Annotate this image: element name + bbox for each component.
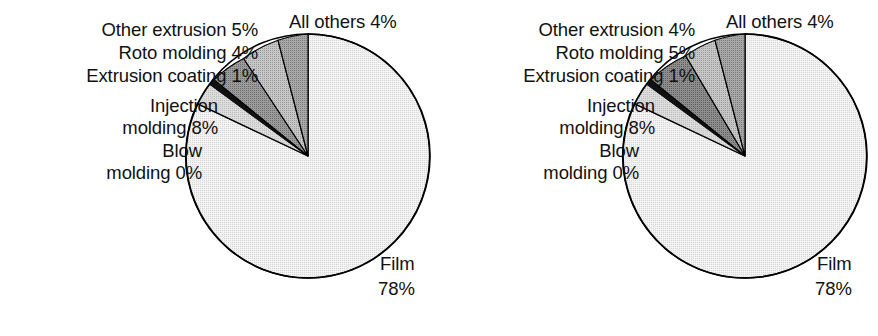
label-film-line1: Film: [817, 254, 852, 274]
label-other-extrusion: Other extrusion 5%: [101, 20, 258, 40]
label-other-extrusion: Other extrusion 4%: [538, 20, 695, 40]
label-roto-molding: Roto molding 5%: [556, 43, 695, 63]
label-extrusion-coating: Extrusion coating 1%: [86, 66, 258, 86]
label-all-others: All others 4%: [726, 12, 834, 32]
label-blow-molding-line1: Blow: [162, 141, 202, 161]
label-extrusion-coating: Extrusion coating 1%: [523, 66, 695, 86]
label-roto-molding: Roto molding 4%: [119, 43, 258, 63]
pie-chart-figure: Other extrusion 5% Roto molding 4% Extru…: [0, 0, 878, 336]
pie-chart-right: Other extrusion 4% Roto molding 5% Extru…: [437, 0, 876, 336]
label-all-others: All others 4%: [289, 12, 397, 32]
label-film-line1: Film: [380, 254, 415, 274]
label-film-line2: 78%: [815, 279, 852, 299]
label-injection-molding-line1: Injection: [587, 96, 655, 116]
label-blow-molding-line2: molding 0%: [543, 163, 639, 183]
label-injection-molding-line2: molding 8%: [122, 118, 218, 138]
label-injection-molding-line2: molding 8%: [559, 118, 655, 138]
label-film-line2: 78%: [378, 279, 415, 299]
label-blow-molding-line1: Blow: [599, 141, 639, 161]
label-injection-molding-line1: Injection: [150, 96, 218, 116]
label-blow-molding-line2: molding 0%: [106, 163, 202, 183]
pie-chart-left: Other extrusion 5% Roto molding 4% Extru…: [0, 0, 439, 336]
